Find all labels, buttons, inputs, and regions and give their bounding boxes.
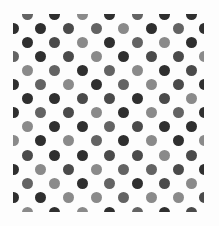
dot bbox=[173, 23, 184, 34]
dot bbox=[22, 207, 33, 213]
dot bbox=[13, 164, 19, 175]
dot bbox=[35, 51, 46, 62]
dot bbox=[77, 121, 88, 132]
dot bbox=[35, 23, 46, 34]
dot bbox=[77, 178, 88, 189]
dot bbox=[146, 51, 157, 62]
dot bbox=[77, 14, 88, 20]
dot bbox=[13, 79, 19, 90]
dot bbox=[63, 79, 74, 90]
dot bbox=[186, 178, 197, 189]
dot bbox=[199, 79, 205, 90]
dot bbox=[118, 192, 129, 203]
dot bbox=[173, 107, 184, 118]
dot bbox=[104, 121, 115, 132]
dot bbox=[49, 150, 60, 161]
dot bbox=[118, 23, 129, 34]
dot bbox=[104, 150, 115, 161]
polka-dot-pattern bbox=[0, 0, 219, 226]
dot bbox=[91, 51, 102, 62]
dot bbox=[132, 14, 143, 20]
dot bbox=[91, 23, 102, 34]
dot bbox=[35, 107, 46, 118]
dot bbox=[22, 178, 33, 189]
dot bbox=[132, 93, 143, 104]
dot bbox=[146, 135, 157, 146]
dot bbox=[186, 121, 197, 132]
dot bbox=[22, 150, 33, 161]
dot bbox=[132, 150, 143, 161]
dot bbox=[199, 164, 205, 175]
dot bbox=[63, 51, 74, 62]
dot bbox=[77, 150, 88, 161]
dot bbox=[77, 207, 88, 213]
dot bbox=[146, 23, 157, 34]
dot bbox=[63, 192, 74, 203]
dot bbox=[13, 192, 19, 203]
dot bbox=[199, 23, 205, 34]
dot bbox=[22, 65, 33, 76]
dot bbox=[173, 192, 184, 203]
dot bbox=[173, 164, 184, 175]
dot bbox=[146, 79, 157, 90]
dot bbox=[159, 121, 170, 132]
dot bbox=[13, 51, 19, 62]
dot bbox=[132, 178, 143, 189]
dot bbox=[49, 178, 60, 189]
dot bbox=[49, 121, 60, 132]
dot bbox=[104, 37, 115, 48]
dot bbox=[199, 51, 205, 62]
dot bbox=[186, 14, 197, 20]
dot bbox=[91, 107, 102, 118]
dot bbox=[49, 65, 60, 76]
dot bbox=[199, 135, 205, 146]
dot bbox=[104, 178, 115, 189]
dot bbox=[118, 51, 129, 62]
dot bbox=[35, 135, 46, 146]
dot bbox=[49, 14, 60, 20]
dot bbox=[13, 107, 19, 118]
dot bbox=[77, 93, 88, 104]
dot bbox=[159, 93, 170, 104]
dot bbox=[132, 121, 143, 132]
dot bbox=[186, 37, 197, 48]
dot bbox=[22, 37, 33, 48]
dot bbox=[159, 207, 170, 213]
dot bbox=[118, 107, 129, 118]
dot bbox=[13, 23, 19, 34]
dot bbox=[49, 207, 60, 213]
dot bbox=[132, 207, 143, 213]
dot bbox=[173, 79, 184, 90]
dot bbox=[159, 37, 170, 48]
dot bbox=[35, 79, 46, 90]
dot bbox=[35, 192, 46, 203]
dot bbox=[91, 164, 102, 175]
dot bbox=[35, 164, 46, 175]
dot bbox=[132, 65, 143, 76]
pattern-clip bbox=[13, 14, 204, 212]
dot bbox=[63, 23, 74, 34]
dot bbox=[159, 65, 170, 76]
dot bbox=[63, 135, 74, 146]
dot bbox=[118, 79, 129, 90]
dot bbox=[186, 207, 197, 213]
dot bbox=[104, 207, 115, 213]
dot bbox=[22, 93, 33, 104]
dot bbox=[63, 107, 74, 118]
dot bbox=[199, 192, 205, 203]
dot bbox=[77, 65, 88, 76]
dot bbox=[199, 107, 205, 118]
dot bbox=[49, 37, 60, 48]
dot bbox=[146, 192, 157, 203]
dot bbox=[173, 51, 184, 62]
dot bbox=[146, 107, 157, 118]
dot bbox=[22, 121, 33, 132]
dot bbox=[159, 14, 170, 20]
dot bbox=[146, 164, 157, 175]
dot bbox=[22, 14, 33, 20]
dot bbox=[186, 93, 197, 104]
dot bbox=[159, 150, 170, 161]
dot bbox=[77, 37, 88, 48]
dot bbox=[63, 164, 74, 175]
dot bbox=[91, 135, 102, 146]
